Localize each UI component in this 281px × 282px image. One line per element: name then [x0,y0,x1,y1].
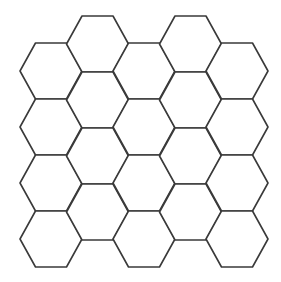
hexagon-grid-svg [0,0,281,282]
hexagon-grid-diagram [0,0,281,282]
